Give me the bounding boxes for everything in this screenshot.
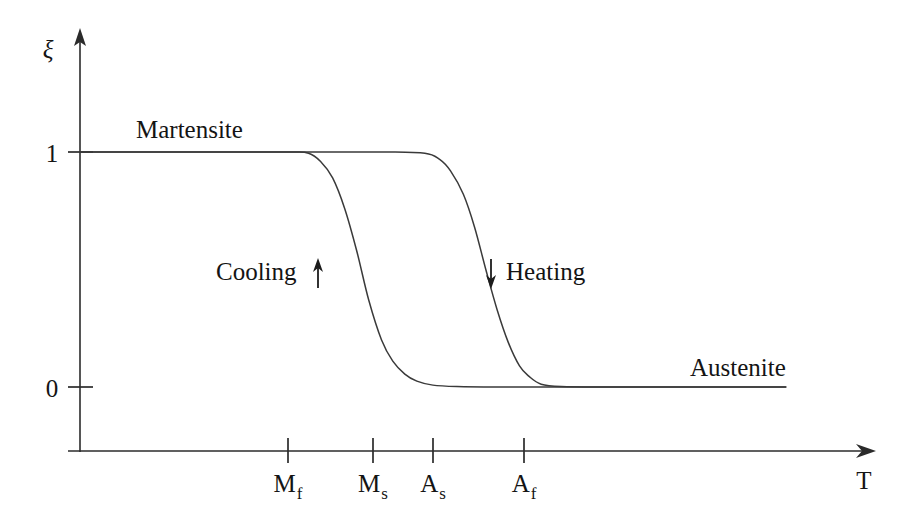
x-tick-label-austenite-start: As (420, 470, 446, 503)
curves-group (80, 152, 786, 387)
cooling-annotation: Cooling (216, 258, 323, 288)
phase-label-group: Martensite Austenite (136, 116, 786, 381)
cooling-curve (80, 152, 786, 387)
x-tick-label-martensite-finish: Mf (274, 470, 303, 503)
austenite-label: Austenite (690, 354, 786, 381)
x-tick-sub-austenite-start: s (439, 484, 446, 503)
x-tick-base-austenite-finish: A (512, 470, 530, 497)
cooling-label: Cooling (216, 258, 297, 285)
heating-annotation: Heating (486, 258, 586, 289)
y-tick-group: 1 0 (46, 140, 93, 402)
y-tick-label-one: 1 (46, 140, 59, 167)
y-axis-label: ξ (43, 36, 54, 63)
x-tick-base-martensite-start: M (358, 470, 380, 497)
x-tick-label-austenite-finish: Af (512, 470, 537, 503)
x-tick-sub-martensite-start: s (381, 484, 388, 503)
x-axis-label: T (856, 467, 871, 494)
x-tick-base-martensite-finish: M (274, 470, 296, 497)
x-tick-sub-martensite-finish: f (297, 484, 303, 503)
x-tick-group: Mf Ms As Af (274, 438, 537, 503)
x-axis-group: T (68, 444, 876, 494)
heating-label: Heating (506, 258, 586, 285)
martensite-label: Martensite (136, 116, 243, 143)
x-tick-label-martensite-start: Ms (358, 470, 388, 503)
hysteresis-chart: ξ T 1 0 Mf Ms (0, 0, 917, 529)
heating-curve (80, 152, 786, 387)
x-tick-base-austenite-start: A (420, 470, 438, 497)
figure-container: ξ T 1 0 Mf Ms (0, 0, 917, 529)
y-tick-label-zero: 0 (46, 375, 59, 402)
x-tick-sub-austenite-finish: f (531, 484, 537, 503)
